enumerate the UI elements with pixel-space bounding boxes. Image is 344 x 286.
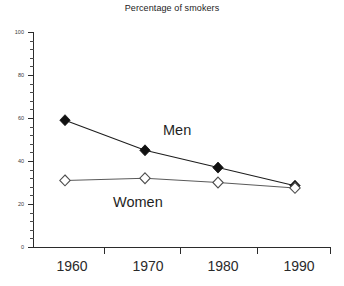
data-point-women-1970: [140, 173, 150, 184]
x-tick-label-1980: 1980: [193, 258, 253, 274]
y-tick-label-0: 0: [2, 244, 24, 250]
data-point-men-1970: [140, 145, 150, 156]
y-tick-label-20: 20: [2, 201, 24, 207]
series-label-men: Men: [163, 122, 191, 138]
y-tick-label-100: 100: [2, 29, 24, 35]
chart-plot-area: [0, 0, 344, 286]
data-point-women-1960: [60, 175, 70, 186]
y-axis-major-ticks: [28, 33, 34, 248]
y-tick-label-80: 80: [2, 72, 24, 78]
x-tick-label-1990: 1990: [269, 258, 329, 274]
y-tick-label-60: 60: [2, 115, 24, 121]
x-tick-label-1970: 1970: [118, 258, 178, 274]
series-label-women: Women: [113, 194, 163, 210]
y-tick-label-40: 40: [2, 158, 24, 164]
series-women-line: [65, 178, 295, 188]
chart-figure: Percentage of smokers: [0, 0, 344, 286]
x-tick-label-1960: 1960: [42, 258, 102, 274]
series-women: [60, 173, 300, 194]
data-point-men-1960: [60, 115, 70, 126]
data-point-women-1980: [213, 177, 223, 188]
x-axis-ticks: [105, 248, 331, 255]
data-point-men-1980: [213, 162, 223, 173]
